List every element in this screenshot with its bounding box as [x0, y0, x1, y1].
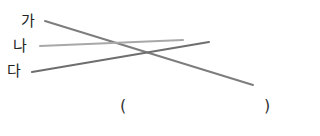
answer-open-paren: ( — [120, 96, 126, 115]
answer-close-paren: ) — [264, 96, 270, 115]
answer-blank[interactable] — [135, 96, 255, 116]
line-da — [32, 42, 209, 72]
